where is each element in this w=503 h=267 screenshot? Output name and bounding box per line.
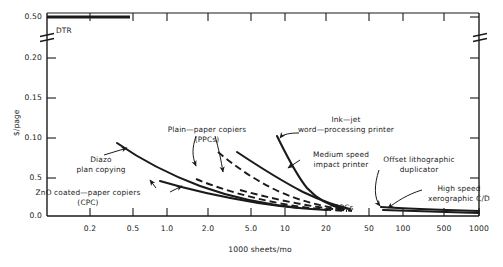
- annotation-medium-speed-impact-printer: Medium speed impact printer: [303, 150, 379, 169]
- x-tick-label-10: 1000: [459, 224, 499, 234]
- x-axis-ticks-top: [90, 13, 444, 21]
- x-tick-label-8: 100: [383, 224, 423, 234]
- chart-container: 0.50 0.20 0.15 0.10 0.5 0.0 $/page 0.2 0…: [0, 0, 503, 267]
- x-tick-label-2: 1.0: [147, 224, 187, 234]
- x-tick-label-9: 500: [424, 224, 464, 234]
- annotation-zno-coated-paper-copiers: ZnO coated—paper copiers (CPC): [28, 188, 148, 207]
- annotation-ink-jet-word-processing-printer: Ink—jet word—processing printer: [287, 115, 405, 134]
- annotation-offset-lithographic-duplicator: Offset lithographic duplicator: [374, 155, 464, 174]
- x-tick-label-6: 20: [306, 224, 346, 234]
- y-tick-label-5: 0.0: [8, 211, 42, 221]
- y-tick-label-2: 0.15: [8, 93, 42, 103]
- series-ink-jet-word-processing-printer: [277, 136, 344, 209]
- axis-lines: [47, 13, 479, 216]
- annotation-high-speed-xerographic-cd: High speed xerographic C/D: [417, 184, 501, 203]
- y-tick-label-0: 0.50: [8, 12, 42, 22]
- leader-offset: [375, 170, 380, 206]
- y-axis-break-right-icon: [473, 34, 487, 42]
- annotation-ppcs-bottom: PPCs: [335, 203, 354, 213]
- x-tick-label-0: 0.2: [70, 224, 110, 234]
- leader-zno2: [170, 186, 182, 192]
- annotation-plain-paper-copiers: Plain—paper copiers (PPCs): [155, 125, 259, 144]
- leader-zno: [150, 180, 156, 188]
- y-tick-label-4: 0.5: [8, 173, 42, 183]
- x-tick-label-3: 2.0: [188, 224, 228, 234]
- x-tick-label-5: 10: [265, 224, 305, 234]
- annotation-diazo-plan-copying: Diazo plan copying: [68, 155, 134, 174]
- y-axis-ticks: [47, 17, 56, 178]
- y-tick-label-1: 0.20: [8, 53, 42, 63]
- y-axis-title: $/page: [12, 110, 21, 136]
- leader-diazo: [104, 148, 127, 155]
- x-axis-title: 1000 sheets/mo: [190, 245, 330, 255]
- annotation-dtr: DTR: [56, 26, 72, 36]
